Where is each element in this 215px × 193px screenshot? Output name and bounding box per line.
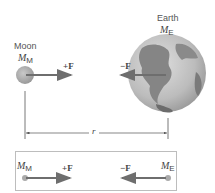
free-body-right-force: −F [120, 163, 131, 173]
earth-globe [128, 34, 206, 113]
diagram-canvas [0, 0, 215, 193]
free-body-box [16, 152, 177, 191]
earth-mass-label: ME [160, 24, 174, 37]
distance-label: r [92, 126, 96, 136]
earth-label: Earth [157, 13, 179, 23]
force-label-on-moon: +F [63, 61, 74, 71]
force-label-on-earth: −F [120, 61, 131, 71]
free-body-left-force: +F [62, 163, 73, 173]
free-body-left-mass: MM [17, 160, 32, 173]
moon-label: Moon [14, 41, 37, 51]
moon-mass-label: MM [18, 52, 33, 65]
free-body-right-mass: ME [161, 160, 175, 173]
